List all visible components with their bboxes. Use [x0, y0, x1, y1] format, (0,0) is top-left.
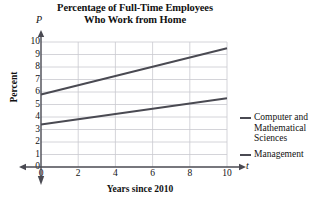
series-line-0 [41, 48, 227, 94]
legend-line-swatch-icon [240, 154, 251, 156]
x-axis-arrow-left [19, 164, 26, 170]
legend-label-line: Mathematical [254, 123, 308, 134]
x-axis-arrow-right [239, 164, 246, 170]
axis-lines [19, 30, 246, 185]
legend-label-line: Management [254, 149, 304, 160]
legend-label-line: Computer and [254, 112, 308, 123]
legend: Computer andMathematicalSciencesManageme… [240, 112, 320, 164]
gridlines [41, 42, 227, 167]
chart-figure: Percentage of Full-Time Employees Who Wo… [0, 0, 320, 203]
series-line-1 [41, 98, 227, 124]
y-axis-arrow-up [38, 30, 44, 37]
data-series-lines [41, 48, 227, 124]
legend-label-line: Sciences [254, 133, 308, 144]
legend-entry: Computer andMathematicalSciences [240, 112, 320, 144]
legend-label: Computer andMathematicalSciences [254, 112, 308, 144]
plot-area [0, 0, 320, 203]
legend-line-swatch-icon [240, 117, 251, 119]
y-axis-arrow-down [38, 176, 44, 185]
legend-entry: Management [240, 149, 320, 160]
legend-label: Management [254, 149, 304, 160]
